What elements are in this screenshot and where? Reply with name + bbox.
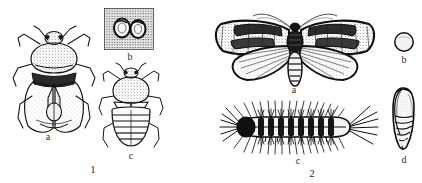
figure-2a-label: a xyxy=(285,85,303,95)
figure-2c-larva-hairy-caterpillar xyxy=(220,100,378,156)
figure-group-1-number: 1 xyxy=(83,164,103,175)
figure-2c-label: c xyxy=(289,156,307,166)
figure-2b-label: b xyxy=(395,55,413,65)
figure-2b-egg-circular xyxy=(393,31,415,53)
figure-1b-label: b xyxy=(120,52,140,62)
figure-2d-label: d xyxy=(395,155,413,165)
figure-2d-pupa xyxy=(388,86,418,152)
figure-group-2-number: 2 xyxy=(303,168,321,179)
figure-1a-adult-bug-dorsal xyxy=(10,24,98,138)
figure-1c-label: c xyxy=(121,151,141,161)
figure-1a-label: a xyxy=(38,132,58,142)
figure-1b-egg-mass-stippled-patch xyxy=(104,8,154,50)
figure-1c-nymph-dorsal xyxy=(98,62,164,152)
illustration-plate: a b xyxy=(0,0,422,183)
figure-2a-adult-moth-wings-spread xyxy=(213,6,377,88)
